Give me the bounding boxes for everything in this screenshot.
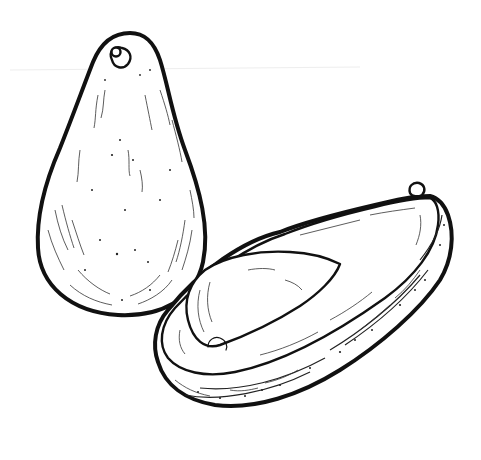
half-stem-nub [410,183,425,196]
whole-avocado [38,33,206,315]
scan-line [10,67,360,70]
stem-nub [111,47,131,67]
avocado-illustration [0,0,481,460]
